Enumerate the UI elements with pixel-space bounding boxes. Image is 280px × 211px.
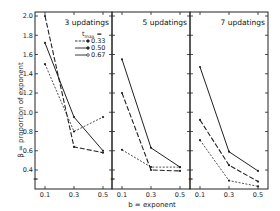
plot-frame bbox=[35, 12, 268, 189]
panel-frame bbox=[190, 12, 268, 189]
legend-label: 0.67 bbox=[91, 51, 105, 59]
data-point bbox=[228, 164, 230, 166]
y-tick-label: 0.4 bbox=[23, 166, 33, 174]
data-point bbox=[150, 169, 152, 171]
x-tick-label: 0.5 bbox=[253, 191, 263, 199]
series-line-0.33 bbox=[45, 64, 103, 131]
panel-frame bbox=[112, 12, 190, 189]
axis-break-icon: ≈ bbox=[188, 175, 193, 183]
x-tick-label: 0.1 bbox=[40, 191, 50, 199]
data-point bbox=[44, 15, 46, 17]
panel-title: 3 updatings bbox=[65, 18, 110, 27]
data-point bbox=[44, 63, 46, 65]
series-line-0.67 bbox=[200, 67, 258, 171]
data-point bbox=[228, 179, 230, 181]
data-point bbox=[199, 139, 201, 141]
data-point bbox=[44, 42, 46, 44]
data-point bbox=[257, 170, 259, 172]
x-tick-label: 0.3 bbox=[224, 191, 234, 199]
data-point bbox=[73, 116, 75, 118]
data-point bbox=[257, 180, 259, 182]
data-point bbox=[150, 147, 152, 149]
data-point bbox=[102, 150, 104, 152]
series-line-0.67 bbox=[45, 43, 103, 151]
x-tick-label: 0.5 bbox=[98, 191, 108, 199]
data-point bbox=[179, 166, 181, 168]
y-tick-label: 2.0 bbox=[23, 12, 33, 20]
panel-title: 5 updatings bbox=[143, 18, 188, 27]
axis-break-icon: ≈ bbox=[110, 175, 115, 183]
data-point bbox=[199, 119, 201, 121]
x-tick-label: 0.5 bbox=[175, 191, 185, 199]
series-line-0.33 bbox=[122, 150, 180, 167]
y-tick-label: 1.8 bbox=[23, 32, 33, 40]
data-point bbox=[228, 151, 230, 153]
data-point bbox=[102, 116, 104, 118]
x-axis-label: b = exponent bbox=[128, 201, 176, 209]
x-tick-label: 0.1 bbox=[195, 191, 205, 199]
data-point bbox=[199, 66, 201, 68]
series-line-0.50 bbox=[122, 93, 180, 171]
data-point bbox=[257, 185, 259, 187]
x-tick-label: 0.3 bbox=[69, 191, 79, 199]
y-axis-label: β = proportion of exponent bbox=[17, 62, 25, 158]
legend: tmax =0.330.500.67 bbox=[75, 30, 105, 59]
data-point bbox=[73, 146, 75, 148]
data-point bbox=[179, 170, 181, 172]
x-tick-label: 0.1 bbox=[117, 191, 127, 199]
data-point bbox=[121, 149, 123, 151]
data-point bbox=[73, 130, 75, 132]
data-point bbox=[121, 92, 123, 94]
data-point bbox=[121, 58, 123, 60]
axis-break-icon: ≈ bbox=[33, 175, 38, 183]
series-line-0.67 bbox=[122, 59, 180, 167]
chart-labels: 0.10.30.5≈3 updatings0.10.30.5≈5 updatin… bbox=[23, 12, 265, 199]
x-tick-label: 0.3 bbox=[146, 191, 156, 199]
line-chart: 0.10.30.5≈3 updatings0.10.30.5≈5 updatin… bbox=[0, 0, 280, 211]
data-point bbox=[102, 152, 104, 154]
y-tick-label: 1.6 bbox=[23, 51, 33, 59]
series-line-0.33 bbox=[200, 140, 258, 186]
panel-title: 7 updatings bbox=[221, 18, 266, 27]
